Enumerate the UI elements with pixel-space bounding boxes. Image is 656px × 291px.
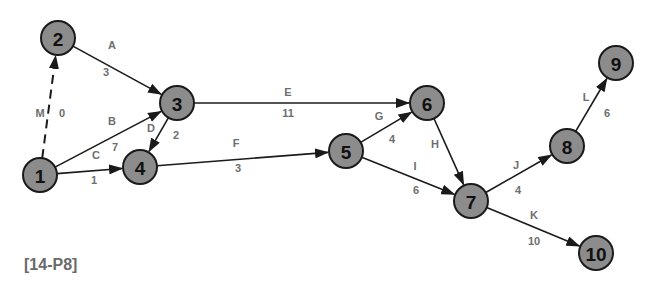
node-9: 9 (599, 46, 633, 80)
activity-label-d: D (147, 122, 155, 134)
node-label: 3 (172, 94, 183, 115)
duration-label-f: 3 (235, 162, 241, 174)
node-10: 10 (579, 236, 613, 270)
duration-label-k: 10 (528, 235, 540, 247)
node-label: 1 (35, 166, 46, 187)
activity-label-b: B (108, 115, 116, 127)
edge-c-arrow (57, 168, 122, 173)
duration-label-a: 3 (103, 66, 109, 78)
node-5: 5 (329, 134, 363, 168)
node-label: 2 (53, 29, 64, 50)
edge-f-arrow (157, 152, 328, 165)
duration-label-m: 0 (59, 107, 65, 119)
activity-label-l: L (583, 91, 590, 103)
node-8: 8 (550, 129, 584, 163)
edge-l-arrow (576, 79, 607, 132)
node-label: 4 (135, 158, 146, 179)
node-label: 6 (422, 94, 433, 115)
activity-label-j: J (513, 159, 519, 171)
duration-label-l: 6 (604, 107, 610, 119)
duration-label-e: 11 (282, 107, 294, 119)
node-4: 4 (123, 150, 157, 184)
node-label: 5 (341, 142, 352, 163)
activity-label-e: E (284, 86, 291, 98)
labels-layer: A3B7C1D2E11F3G4HI6J4K10L6M0 (35, 39, 610, 247)
edge-h-arrow (434, 119, 464, 185)
activity-label-h: H (431, 138, 439, 150)
activity-label-k: K (530, 209, 538, 221)
node-7: 7 (454, 184, 488, 218)
duration-label-g: 4 (389, 133, 396, 145)
figure-caption: [14-P8] (24, 256, 77, 274)
activity-label-c: C (92, 149, 100, 161)
edge-i-arrow (362, 157, 455, 194)
duration-label-b: 7 (112, 141, 118, 153)
duration-label-j: 4 (515, 184, 522, 196)
edge-g-arrow (361, 112, 412, 142)
activity-label-a: A (108, 39, 116, 51)
node-3: 3 (160, 86, 194, 120)
node-6: 6 (410, 86, 444, 120)
node-label: 7 (466, 192, 477, 213)
duration-label-d: 2 (173, 129, 179, 141)
node-label: 9 (611, 54, 622, 75)
duration-label-i: 6 (413, 184, 419, 196)
node-label: 10 (585, 244, 606, 265)
edges-layer (42, 46, 607, 246)
activity-label-g: G (375, 110, 384, 122)
activity-label-f: F (233, 137, 240, 149)
network-diagram: 12345678910 A3B7C1D2E11F3G4HI6J4K10L6M0 (0, 0, 656, 291)
node-label: 8 (562, 137, 573, 158)
node-1: 1 (23, 158, 57, 192)
activity-label-i: I (413, 160, 416, 172)
node-2: 2 (41, 21, 75, 55)
activity-label-m: M (35, 107, 44, 119)
duration-label-c: 1 (91, 174, 97, 186)
edge-a-arrow (73, 46, 161, 94)
